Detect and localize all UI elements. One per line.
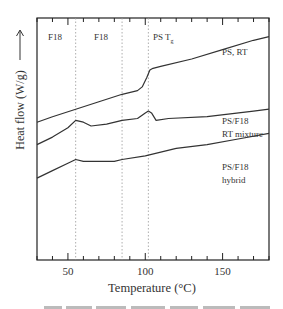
y-axis-arrow-icon — [17, 30, 24, 60]
x-axis-label: Temperature (°C) — [108, 281, 196, 295]
y-axis-label: Heat flow (W/g) — [13, 70, 27, 149]
reference-lines — [76, 18, 149, 260]
series-label-rt-mixture-1: PS/F18 — [222, 116, 249, 126]
x-tick-labels: 50100150 — [62, 265, 231, 277]
series-label-ps-rt: PS, RT — [222, 47, 248, 57]
series-label-hybrid-2: hybrid — [222, 175, 246, 185]
dsc-chart: 50100150 Heat flow (W/g) Temperature (°C… — [0, 0, 283, 309]
series-label-hybrid-1: PS/F18 — [222, 162, 249, 172]
x-tick-label: 150 — [214, 265, 231, 277]
refline-label-f18-2: F18 — [94, 32, 109, 42]
x-tick-label: 100 — [137, 265, 154, 277]
series-label-rt-mixture-2: RT mixture — [222, 129, 263, 139]
refline-label-ps-tg: PS Tg — [153, 32, 174, 44]
refline-label-f18-1: F18 — [48, 32, 63, 42]
x-tick-label: 50 — [62, 265, 74, 277]
dsc-curves — [37, 37, 269, 179]
